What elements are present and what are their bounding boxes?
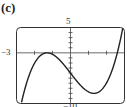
cubic-curve (22, 28, 123, 102)
graph (0, 0, 127, 107)
